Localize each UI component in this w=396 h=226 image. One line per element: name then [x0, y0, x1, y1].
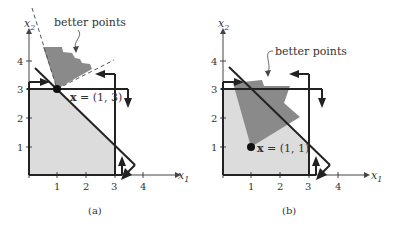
- x-tick-label: 1: [54, 181, 60, 192]
- x-tick-label: 1: [248, 181, 254, 192]
- y-tick-label: 3: [211, 84, 217, 95]
- panel-a: 1 2 3 4 1 2 3 4 x1 x2: [17, 8, 189, 216]
- y-axis-label: x2: [24, 17, 35, 32]
- x-tick-label: 3: [305, 181, 311, 192]
- better-points-label: better points: [275, 45, 347, 58]
- arrow-right-icon: [40, 78, 50, 86]
- arrow-down-icon: [318, 98, 326, 108]
- arrow-left-icon: [95, 70, 105, 78]
- x-tick-label: 2: [83, 181, 89, 192]
- panel-caption: (b): [282, 205, 296, 216]
- x-tick-label: 4: [140, 181, 146, 192]
- x-axis-arrow-icon: [364, 172, 370, 178]
- current-point: [247, 143, 255, 151]
- y-axis-label: x2: [218, 17, 229, 32]
- y-tick-label: 3: [17, 84, 23, 95]
- arrow-up-icon: [118, 156, 126, 166]
- y-tick-label: 4: [17, 56, 23, 67]
- better-points-label: better points: [54, 16, 126, 29]
- point-label: x = (1, 3): [70, 91, 122, 104]
- y-tick-label: 1: [17, 142, 23, 153]
- annotation-leader: [268, 51, 273, 72]
- point-label: x = (1, 1): [257, 142, 309, 155]
- arrow-down-icon: [124, 98, 132, 108]
- y-tick-label: 2: [211, 113, 217, 124]
- annotation-arrow-icon: [73, 46, 79, 53]
- x-tick-label: 4: [335, 181, 341, 192]
- annotation-leader: [75, 30, 80, 48]
- arrow-left-icon: [289, 70, 299, 78]
- current-point: [53, 85, 61, 93]
- x-axis-label: x1: [178, 169, 189, 184]
- panel-b: 1 2 3 4 1 2 3 4 x1 x2 better poi: [211, 17, 382, 216]
- panel-caption: (a): [88, 205, 102, 216]
- y-tick-label: 1: [211, 142, 217, 153]
- x-tick-label: 3: [111, 181, 117, 192]
- annotation-arrow-icon: [265, 70, 271, 77]
- y-tick-label: 2: [17, 113, 23, 124]
- x-axis-label: x1: [371, 169, 382, 184]
- figure: 1 2 3 4 1 2 3 4 x1 x2: [0, 0, 396, 226]
- x-tick-label: 2: [277, 181, 283, 192]
- y-tick-label: 4: [211, 56, 217, 67]
- arrow-up-icon: [312, 156, 320, 166]
